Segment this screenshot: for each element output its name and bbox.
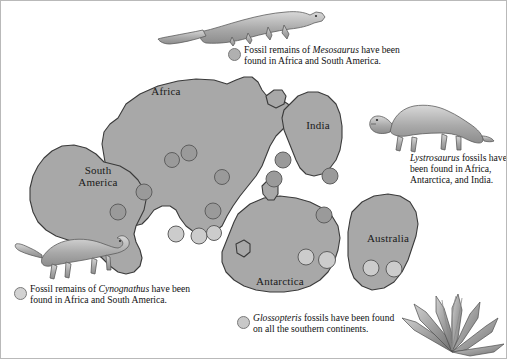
caption-lystrosaurus: Lystrosaurus fossils have been found in …	[410, 152, 508, 186]
glossopteris-marker-swatch	[237, 316, 250, 329]
continent-label-australia: Australia	[348, 233, 428, 245]
mesosaurus-marker-swatch	[228, 48, 241, 61]
glossopteris-illustration	[402, 294, 504, 356]
continent-label-south-america: South America	[58, 165, 138, 188]
taxon-lystrosaurus: Lystrosaurus	[410, 152, 459, 163]
mesosaurus-illustration	[158, 12, 325, 46]
continent-label-africa: Africa	[126, 86, 206, 98]
cynognathus-marker-swatch	[14, 287, 27, 300]
caption-mesosaurus: Fossil remains of Mesosaurus have been f…	[244, 44, 424, 66]
cynognathus-illustration	[15, 236, 129, 279]
caption-cynognathus: Fossil remains of Cynognathus have been …	[30, 283, 205, 305]
continent-label-india: India	[288, 120, 348, 132]
caption-glossopteris: Glossopteris fossils have been found on …	[253, 312, 403, 334]
continent-label-antarctica: Antarctica	[235, 276, 325, 288]
taxon-mesosaurus: Mesosaurus	[313, 44, 359, 55]
lystrosaurus-illustration	[370, 105, 494, 152]
taxon-glossopteris: Glossopteris	[253, 312, 302, 323]
figure-canvas: Africa South America India Antarctica Au…	[0, 0, 509, 361]
taxon-cynognathus: Cynognathus	[99, 283, 150, 294]
